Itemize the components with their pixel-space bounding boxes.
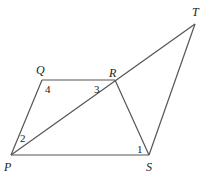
angle-label-1: 1 bbox=[137, 143, 143, 155]
vertex-label-q: Q bbox=[36, 63, 45, 77]
segments bbox=[11, 24, 195, 155]
angle-label-3: 3 bbox=[94, 83, 100, 95]
vertex-label-t: T bbox=[192, 5, 200, 19]
angle-label-2: 2 bbox=[20, 132, 26, 144]
vertex-label-r: R bbox=[108, 66, 117, 80]
angle-labels: 1234 bbox=[20, 83, 143, 155]
vertex-label-s: S bbox=[146, 160, 152, 174]
angle-label-4: 4 bbox=[45, 83, 51, 95]
geometry-diagram: PQRST 1234 bbox=[0, 0, 201, 174]
vertex-label-p: P bbox=[3, 160, 12, 174]
segment-st bbox=[149, 24, 195, 155]
vertex-labels: PQRST bbox=[3, 5, 200, 174]
segment-rs bbox=[115, 80, 149, 155]
